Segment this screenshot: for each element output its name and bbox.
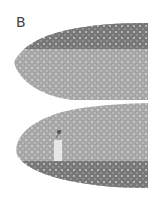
fabric-illustration [0, 0, 155, 198]
top-fabric-piece [0, 0, 155, 110]
bottom-fabric-piece [0, 100, 155, 198]
